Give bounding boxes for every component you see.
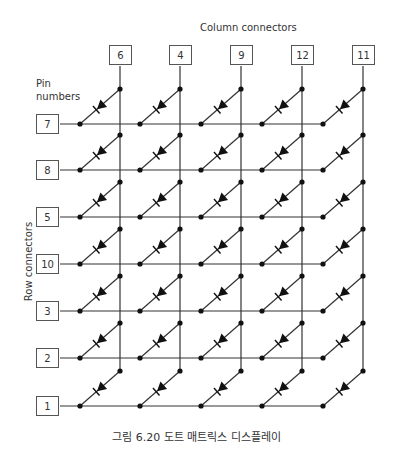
row-pin-box: 5 [36,207,59,227]
junction-dot [117,132,122,137]
pin-numbers-label-2: numbers [36,91,80,102]
junction-dot [77,355,82,360]
junction-dot [117,368,122,373]
junction-dot [360,320,365,325]
junction-dot [137,403,142,408]
junction-dot [198,355,203,360]
junction-dot [137,214,142,219]
junction-dot [198,308,203,313]
junction-dot [320,261,325,266]
junction-dot [238,132,243,137]
junction-dot [360,179,365,184]
row-connectors-label: Row connectors [23,212,34,312]
junction-dot [177,320,182,325]
junction-dot [299,368,304,373]
junction-dot [117,86,122,91]
junction-dot [77,121,82,126]
junction-dot [259,403,264,408]
junction-dot [117,179,122,184]
junction-dot [360,86,365,91]
junction-dot [137,355,142,360]
junction-dot [299,226,304,231]
junction-dot [360,226,365,231]
column-pin-box: 11 [352,45,375,65]
column-pin-box: 6 [109,45,132,65]
junction-dot [259,355,264,360]
column-pin-box: 9 [230,45,253,65]
column-pin-box: 4 [169,45,192,65]
junction-dot [320,214,325,219]
column-connectors-label: Column connectors [200,22,297,33]
junction-dot [238,179,243,184]
dot-matrix-diagram [0,0,393,460]
junction-dot [177,132,182,137]
junction-dot [259,214,264,219]
row-pin-box: 3 [36,301,59,321]
junction-dot [177,273,182,278]
junction-dot [117,273,122,278]
junction-dot [320,403,325,408]
junction-dot [77,214,82,219]
junction-dot [137,261,142,266]
figure-caption: 그림 6.20 도트 매트릭스 디스플레이 [0,428,393,444]
junction-dot [299,179,304,184]
junction-dot [198,261,203,266]
pin-numbers-label-1: Pin [36,78,51,89]
row-pin-box: 7 [36,114,59,134]
junction-dot [320,308,325,313]
junction-dot [238,273,243,278]
junction-dot [259,121,264,126]
junction-dot [259,167,264,172]
junction-dot [238,368,243,373]
junction-dot [238,226,243,231]
junction-dot [299,132,304,137]
row-pin-box: 2 [36,348,59,368]
junction-dot [360,132,365,137]
junction-dot [198,167,203,172]
row-pin-box: 1 [36,396,59,416]
junction-dot [360,368,365,373]
junction-dot [77,308,82,313]
junction-dot [77,167,82,172]
junction-dot [259,261,264,266]
row-pin-box: 10 [36,254,59,274]
junction-dot [177,179,182,184]
junction-dot [117,226,122,231]
junction-dot [137,167,142,172]
junction-dot [177,86,182,91]
column-pin-box: 12 [291,45,314,65]
junction-dot [238,320,243,325]
junction-dot [299,320,304,325]
junction-dot [238,86,243,91]
junction-dot [137,308,142,313]
junction-dot [259,308,264,313]
junction-dot [320,121,325,126]
junction-dot [77,403,82,408]
row-pin-box: 8 [36,160,59,180]
junction-dot [177,368,182,373]
junction-dot [320,167,325,172]
junction-dot [299,86,304,91]
junction-dot [77,261,82,266]
junction-dot [137,121,142,126]
junction-dot [299,273,304,278]
junction-dot [177,226,182,231]
junction-dot [198,403,203,408]
junction-dot [198,214,203,219]
junction-dot [117,320,122,325]
junction-dot [198,121,203,126]
junction-dot [360,273,365,278]
junction-dot [320,355,325,360]
